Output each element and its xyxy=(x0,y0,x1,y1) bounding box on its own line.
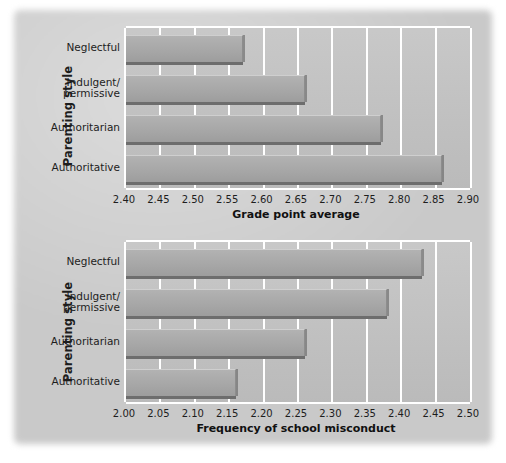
category-labels-bottom: NeglectfulIndulgent/ permissiveAuthorita… xyxy=(36,242,120,402)
x-tick-label: 2.40 xyxy=(388,408,410,419)
x-tick-label: 2.65 xyxy=(285,194,307,205)
plot-area-bottom xyxy=(124,242,472,402)
category-label: Neglectful xyxy=(36,256,120,268)
plot-bottom-rule xyxy=(126,188,470,190)
x-tick-label: 2.10 xyxy=(182,408,204,419)
x-tick-label: 2.30 xyxy=(319,408,341,419)
bar xyxy=(126,329,305,356)
bar xyxy=(126,369,236,396)
x-tick-label: 2.00 xyxy=(113,408,135,419)
x-tick-label: 2.75 xyxy=(354,194,376,205)
x-tick-label: 2.80 xyxy=(388,194,410,205)
x-tick-label: 2.85 xyxy=(422,194,444,205)
x-axis-title-top: Grade point average xyxy=(124,208,468,221)
bar xyxy=(126,75,305,102)
bar xyxy=(126,115,381,142)
x-tick-label: 2.50 xyxy=(457,408,479,419)
figure-container: Parenting style NeglectfulIndulgent/ per… xyxy=(0,0,506,463)
category-labels-top: NeglectfulIndulgent/ permissiveAuthorita… xyxy=(36,28,120,188)
category-label: Authoritative xyxy=(36,162,120,174)
x-tick-label: 2.25 xyxy=(285,408,307,419)
x-tick-label: 2.05 xyxy=(147,408,169,419)
category-label: Authoritative xyxy=(36,376,120,388)
category-label: Neglectful xyxy=(36,42,120,54)
plot-area-top xyxy=(124,28,472,188)
x-tick-label: 2.70 xyxy=(319,194,341,205)
x-tick-label: 2.35 xyxy=(354,408,376,419)
chart-grade-point-average: Parenting style NeglectfulIndulgent/ per… xyxy=(0,8,506,223)
bar xyxy=(126,289,387,316)
x-tick-label: 2.20 xyxy=(250,408,272,419)
bar xyxy=(126,249,422,276)
bar xyxy=(126,35,243,62)
category-label: Authoritarian xyxy=(36,122,120,134)
gridline xyxy=(435,242,437,402)
x-axis-ticks-top: 2.402.452.502.552.602.652.702.752.802.85… xyxy=(124,194,468,208)
category-label: Indulgent/ permissive xyxy=(36,291,120,314)
x-tick-label: 2.50 xyxy=(182,194,204,205)
x-tick-label: 2.45 xyxy=(147,194,169,205)
category-label: Authoritarian xyxy=(36,336,120,348)
x-tick-label: 2.45 xyxy=(422,408,444,419)
x-tick-label: 2.90 xyxy=(457,194,479,205)
x-tick-label: 2.55 xyxy=(216,194,238,205)
x-tick-label: 2.60 xyxy=(250,194,272,205)
plot-bottom-rule xyxy=(126,402,470,404)
x-axis-ticks-bottom: 2.002.052.102.152.202.252.302.352.402.45… xyxy=(124,408,468,422)
category-label: Indulgent/ permissive xyxy=(36,77,120,100)
bar xyxy=(126,155,442,182)
x-axis-title-bottom: Frequency of school misconduct xyxy=(124,422,468,435)
chart-frequency-of-school-misconduct: Parenting style NeglectfulIndulgent/ per… xyxy=(0,222,506,442)
x-tick-label: 2.15 xyxy=(216,408,238,419)
x-tick-label: 2.40 xyxy=(113,194,135,205)
